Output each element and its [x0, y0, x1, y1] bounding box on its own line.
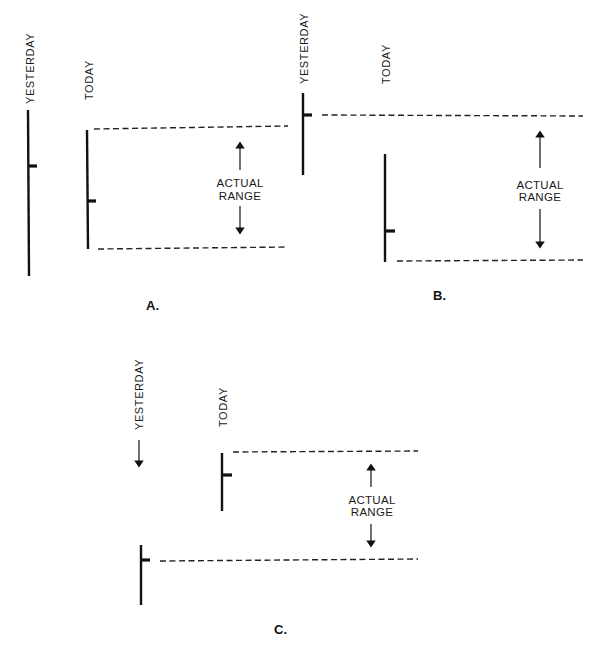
range-label: RANGE [219, 190, 261, 202]
yesterday-label: YESTERDAY [24, 33, 36, 104]
range-top-dashed-line [322, 115, 583, 116]
today-label: TODAY [217, 387, 229, 427]
panel-c-caption: C. [274, 622, 287, 637]
panel-a-caption: A. [146, 298, 159, 313]
range-bottom-dashed-line [160, 559, 418, 561]
range-label: RANGE [351, 506, 393, 518]
range-bottom-dashed-line [397, 260, 583, 261]
range-top-dashed-line [233, 451, 418, 452]
actual-label: ACTUAL [216, 177, 263, 189]
panel-a: YESTERDAY TODAY ACTUAL RANGE A. [24, 33, 288, 313]
today-label: TODAY [83, 60, 95, 100]
actual-range-diagram: YESTERDAY TODAY ACTUAL RANGE A. YESTERDA… [0, 0, 597, 648]
range-label: RANGE [519, 191, 561, 203]
yesterday-price-bar [28, 110, 29, 276]
actual-label: ACTUAL [348, 494, 395, 506]
panel-c: YESTERDAY TODAY ACTUAL RANGE C. [133, 359, 418, 637]
panel-b-caption: B. [433, 288, 446, 303]
yesterday-label: YESTERDAY [298, 13, 310, 84]
yesterday-label: YESTERDAY [133, 359, 145, 430]
range-top-dashed-line [94, 126, 288, 129]
panel-b: YESTERDAY TODAY ACTUAL RANGE B. [298, 13, 583, 303]
range-bottom-dashed-line [98, 247, 288, 249]
today-price-bar [87, 130, 88, 249]
actual-label: ACTUAL [516, 179, 563, 191]
today-label: TODAY [380, 44, 392, 84]
